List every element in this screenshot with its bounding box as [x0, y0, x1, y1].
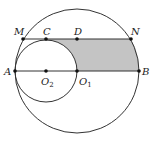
label-A: A	[3, 66, 11, 77]
label-O1: O1	[79, 76, 92, 89]
label-B: B	[141, 66, 149, 77]
point-N	[129, 37, 133, 41]
label-N: N	[130, 26, 141, 37]
point-O1	[75, 69, 79, 73]
geometry-figure: M C D N A B O2 O1	[0, 0, 155, 150]
diagram-canvas: M C D N A B O2 O1	[0, 0, 155, 150]
point-B	[137, 69, 141, 73]
label-M: M	[13, 26, 25, 37]
label-O2: O2	[41, 76, 54, 89]
label-D: D	[73, 26, 82, 37]
point-O2	[44, 69, 48, 73]
label-C: C	[43, 26, 51, 37]
point-A	[13, 69, 17, 73]
point-M	[21, 37, 25, 41]
point-C	[44, 37, 48, 41]
point-D	[75, 37, 79, 41]
